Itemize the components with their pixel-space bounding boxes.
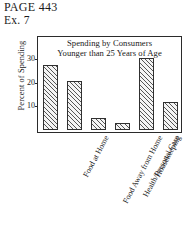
y-tick-label: 20 — [15, 79, 35, 87]
bar — [43, 65, 58, 130]
y-axis-ticks: 102030 — [15, 33, 35, 141]
bar-chart-figure: Percent of Spending 102030 Spending by C… — [0, 33, 186, 232]
bar-series — [38, 37, 181, 132]
bar — [115, 123, 130, 130]
y-tick-label: 10 — [15, 102, 35, 110]
page-number-label: PAGE 443 — [4, 1, 182, 14]
exercise-number-label: Ex. 7 — [4, 14, 182, 27]
x-axis-labels: Food at HomeFood Away from HomeHealth/Pe… — [37, 134, 182, 232]
bar — [139, 58, 154, 130]
x-tick-label: Food at Home — [81, 134, 110, 179]
bar — [67, 81, 82, 130]
y-tick-label: 30 — [15, 55, 35, 63]
plot-area: Spending by Consumers Younger than 25 Ye… — [37, 36, 182, 133]
bar — [91, 118, 106, 130]
page-header: PAGE 443 Ex. 7 — [4, 1, 182, 27]
bar — [163, 102, 178, 130]
